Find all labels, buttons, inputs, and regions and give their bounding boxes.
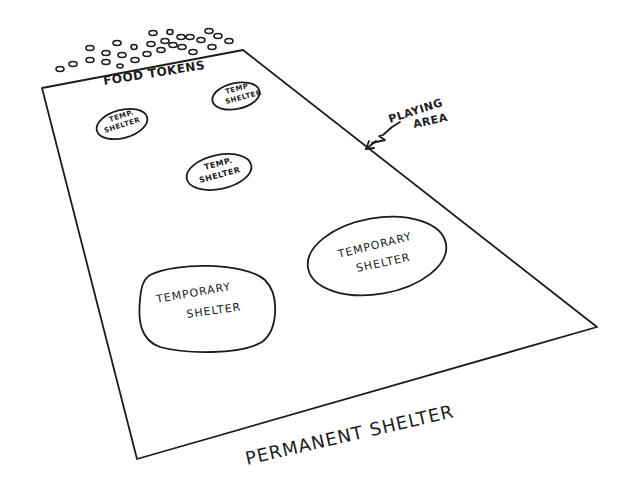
food-token — [161, 39, 169, 44]
food-token — [225, 39, 233, 44]
food-token — [102, 51, 110, 56]
food-token — [197, 38, 205, 43]
food-token — [205, 29, 213, 34]
food-token — [69, 62, 77, 67]
food-token — [147, 42, 155, 47]
game-layout-diagram: FOOD TOKENS PLAYING AREA TEMP. SHELTER T… — [0, 0, 624, 501]
food-token — [149, 31, 157, 36]
food-token — [157, 48, 165, 53]
food-token — [86, 58, 94, 63]
food-token — [143, 52, 151, 57]
food-token — [118, 53, 126, 58]
food-token — [214, 34, 222, 39]
food-token — [102, 60, 110, 65]
food-token — [131, 45, 137, 50]
food-token — [189, 50, 197, 55]
permanent-shelter-label: PERMANENT SHELTER — [243, 400, 456, 468]
food-token — [113, 41, 121, 46]
food-token — [56, 67, 64, 72]
food-token — [169, 43, 177, 48]
food-token — [131, 58, 139, 63]
temp-shelter-small-left: TEMP. SHELTER — [93, 104, 150, 145]
food-token — [177, 35, 185, 40]
temporary-shelter-large-right: TEMPORARY SHELTER — [301, 206, 452, 305]
food-token — [178, 45, 186, 50]
food-token — [117, 64, 123, 68]
food-token — [86, 46, 94, 51]
food-tokens-cluster — [56, 29, 233, 72]
food-token — [167, 30, 173, 35]
food-token — [186, 35, 194, 40]
shelter-label: SHELTER — [186, 300, 242, 321]
temp-shelter-small-right: TEMP SHELTER — [210, 78, 263, 113]
temp-shelter-small-center: TEMP. SHELTER — [183, 149, 255, 196]
playing-area-arrow — [366, 122, 400, 149]
food-token — [208, 45, 216, 50]
temporary-shelter-large-left: TEMPORARY SHELTER — [139, 266, 275, 352]
